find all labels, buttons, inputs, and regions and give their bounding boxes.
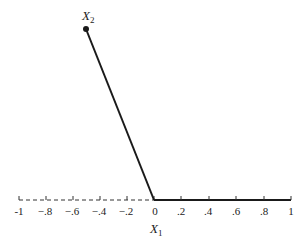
x2-point-label: X2	[81, 8, 94, 25]
x2-point-marker	[83, 26, 89, 32]
tick-label: .6	[232, 205, 241, 217]
vector-line	[86, 29, 154, 200]
diagram-canvas: -1 −.8 −.6 −.4 −.2 0 .2 .4 .6 .8 1 X1 X2	[0, 0, 304, 241]
tick-label: −.2	[119, 205, 133, 217]
tick-label: .2	[177, 205, 185, 217]
diagram-svg: -1 −.8 −.6 −.4 −.2 0 .2 .4 .6 .8 1 X1 X2	[0, 0, 304, 241]
tick-label: .4	[204, 205, 213, 217]
tick-label: -1	[14, 205, 23, 217]
tick-label: −.6	[65, 205, 80, 217]
tick-label: .8	[260, 205, 269, 217]
tick-label: −.8	[38, 205, 53, 217]
x-axis-label: X1	[149, 221, 162, 238]
tick-labels: -1 −.8 −.6 −.4 −.2 0 .2 .4 .6 .8 1	[14, 205, 293, 217]
tick-label: 0	[152, 205, 158, 217]
tick-label: 1	[288, 205, 294, 217]
tick-label: −.4	[92, 205, 107, 217]
